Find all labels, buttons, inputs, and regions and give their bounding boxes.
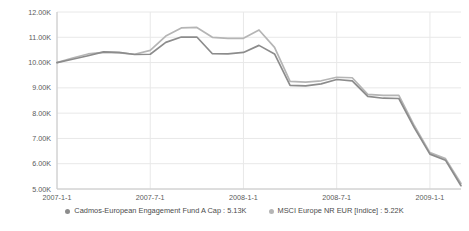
- chart-canvas: 5.00K6.00K7.00K8.00K9.00K10.00K11.00K12.…: [0, 0, 469, 203]
- legend-item-index[interactable]: MSCI Europe NR EUR [Indice] : 5.22K: [269, 206, 404, 216]
- chart-plot-area: 5.00K6.00K7.00K8.00K9.00K10.00K11.00K12.…: [0, 0, 469, 203]
- line-chart-widget: 5.00K6.00K7.00K8.00K9.00K10.00K11.00K12.…: [0, 0, 469, 231]
- x-tick-label: 2007-7-1: [136, 193, 165, 202]
- legend-marker-icon: [269, 209, 274, 214]
- chart-legend: Cadmos-European Engagement Fund A Cap : …: [0, 206, 469, 231]
- legend-item-fund[interactable]: Cadmos-European Engagement Fund A Cap : …: [65, 206, 246, 216]
- legend-item-label: Cadmos-European Engagement Fund A Cap : …: [74, 206, 246, 216]
- y-tick-label: 8.00K: [32, 109, 51, 118]
- y-tick-label: 10.00K: [28, 58, 51, 67]
- x-tick-label: 2008-1-1: [229, 193, 258, 202]
- x-tick-label: 2009-1-1: [416, 193, 445, 202]
- y-tick-label: 6.00K: [32, 159, 51, 168]
- y-tick-label: 7.00K: [32, 134, 51, 143]
- x-tick-label: 2007-1-1: [43, 193, 72, 202]
- y-axis-tick-labels: 5.00K6.00K7.00K8.00K9.00K10.00K11.00K12.…: [28, 8, 51, 194]
- y-tick-label: 9.00K: [32, 83, 51, 92]
- x-tick-label: 2008-7-1: [322, 193, 351, 202]
- y-tick-label: 11.00K: [29, 33, 51, 42]
- y-tick-label: 12.00K: [28, 8, 51, 17]
- legend-marker-icon: [65, 209, 70, 214]
- x-axis-tick-labels: 2007-1-12007-7-12008-1-12008-7-12009-1-1: [43, 193, 445, 202]
- legend-item-label: MSCI Europe NR EUR [Indice] : 5.22K: [278, 206, 404, 216]
